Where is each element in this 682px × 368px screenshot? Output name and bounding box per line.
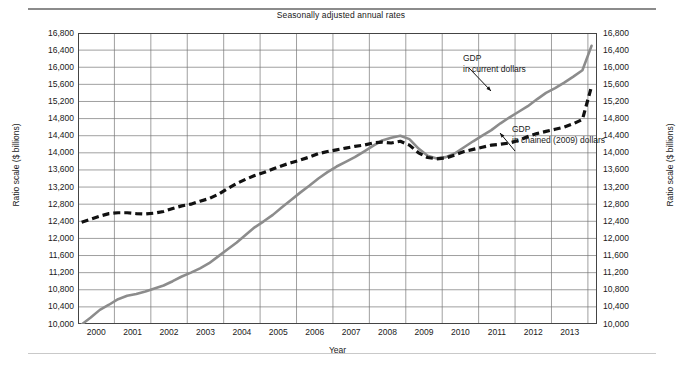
annotation-gdp-chained-dollars: GDP in chained (2009) dollars — [512, 124, 605, 146]
y-tick-label-right: 13,600 — [603, 164, 651, 174]
y-tick-label-left: 15,200 — [26, 96, 74, 106]
plot-area — [78, 33, 597, 324]
y-axis-label-right: Ratio scale ($ billions) — [665, 95, 675, 235]
y-tick-label-left: 14,000 — [26, 147, 74, 157]
plot-border — [79, 34, 597, 324]
y-tick-label-right: 12,800 — [603, 199, 651, 209]
y-tick-label-left: 12,000 — [26, 233, 74, 243]
x-tick-label: 2007 — [331, 327, 371, 337]
y-axis-label-left: Ratio scale ($ billions) — [11, 95, 21, 235]
y-tick-label-right: 15,200 — [603, 96, 651, 106]
chart-svg — [78, 33, 597, 324]
y-tick-label-left: 13,600 — [26, 164, 74, 174]
annotation-gdp-chained-line1: GDP — [512, 124, 605, 135]
y-tick-label-right: 16,400 — [603, 45, 651, 55]
annotation-gdp-current-line2: in current dollars — [463, 64, 526, 75]
y-tick-label-left: 12,400 — [26, 216, 74, 226]
y-tick-label-right: 10,800 — [603, 284, 651, 294]
y-tick-label-right: 12,400 — [603, 216, 651, 226]
x-tick-label: 2009 — [404, 327, 444, 337]
x-tick-label: 2000 — [76, 327, 116, 337]
annotation-gdp-current-dollars: GDP in current dollars — [463, 53, 526, 75]
y-tick-label-left: 16,400 — [26, 45, 74, 55]
annotation-gdp-current-line1: GDP — [463, 53, 526, 64]
y-tick-label-left: 14,400 — [26, 130, 74, 140]
y-tick-label-right: 11,200 — [603, 267, 651, 277]
x-axis-label: Year — [78, 345, 597, 355]
y-tick-label-right: 15,600 — [603, 79, 651, 89]
y-tick-label-left: 15,600 — [26, 79, 74, 89]
x-tick-label: 2001 — [113, 327, 153, 337]
y-tick-label-left: 12,800 — [26, 199, 74, 209]
x-tick-label: 2010 — [440, 327, 480, 337]
y-tick-label-right: 16,800 — [603, 28, 651, 38]
y-tick-label-right: 12,000 — [603, 233, 651, 243]
y-tick-label-right: 10,400 — [603, 301, 651, 311]
y-tick-label-right: 14,400 — [603, 130, 651, 140]
x-tick-label: 2012 — [513, 327, 553, 337]
y-tick-label-left: 14,800 — [26, 113, 74, 123]
x-tick-label: 2002 — [149, 327, 189, 337]
y-tick-label-right: 14,000 — [603, 147, 651, 157]
y-tick-label-left: 10,000 — [26, 319, 74, 329]
x-tick-label: 2011 — [477, 327, 517, 337]
x-tick-label: 2003 — [185, 327, 225, 337]
x-tick-label: 2008 — [368, 327, 408, 337]
y-tick-label-left: 16,000 — [26, 62, 74, 72]
y-tick-label-left: 16,800 — [26, 28, 74, 38]
x-tick-label: 2005 — [258, 327, 298, 337]
y-tick-label-right: 13,200 — [603, 182, 651, 192]
y-tick-label-right: 14,800 — [603, 113, 651, 123]
y-tick-label-right: 16,000 — [603, 62, 651, 72]
x-tick-label: 2004 — [222, 327, 262, 337]
y-tick-label-right: 10,000 — [603, 319, 651, 329]
chart-title: Seasonally adjusted annual rates — [0, 10, 682, 20]
x-tick-label: 2006 — [295, 327, 335, 337]
y-tick-label-left: 10,800 — [26, 284, 74, 294]
annotation-gdp-chained-line2: in chained (2009) dollars — [512, 135, 605, 146]
y-tick-label-right: 11,600 — [603, 250, 651, 260]
x-tick-label: 2013 — [550, 327, 590, 337]
y-tick-label-left: 11,600 — [26, 250, 74, 260]
figure-container: Seasonally adjusted annual rates Ratio s… — [0, 0, 682, 368]
y-tick-label-left: 10,400 — [26, 301, 74, 311]
y-tick-label-left: 13,200 — [26, 182, 74, 192]
y-tick-label-left: 11,200 — [26, 267, 74, 277]
